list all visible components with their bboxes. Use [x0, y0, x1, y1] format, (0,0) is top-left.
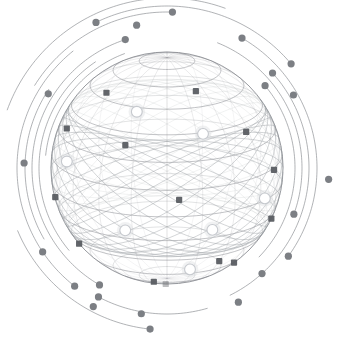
orbital-satellite-dot — [235, 299, 242, 306]
orbital-satellite-dot — [290, 91, 297, 98]
orbital-endpoint-dot — [261, 82, 268, 89]
orbital-arc — [25, 89, 49, 239]
network-node — [151, 279, 157, 285]
orbital-endpoint-dot — [290, 211, 297, 218]
globe-network-illustration — [0, 0, 339, 352]
orbital-endpoint-dot — [269, 69, 276, 76]
orbital-satellite-dot — [258, 270, 265, 277]
orbital-satellite-dot — [20, 159, 27, 166]
orbital-satellite-dot — [325, 176, 332, 183]
network-node — [64, 125, 70, 131]
network-node — [268, 215, 274, 221]
network-node — [243, 129, 249, 135]
network-node — [216, 258, 222, 264]
orbital-endpoint-dot — [122, 36, 129, 43]
orbital-endpoint-dot — [169, 9, 176, 16]
orbital-arc — [96, 6, 290, 63]
network-node — [271, 167, 277, 173]
orbital-satellite-dot — [45, 90, 52, 97]
highlight-node — [120, 225, 131, 236]
orbital-endpoint-dot — [285, 253, 292, 260]
orbital-satellite-dot — [39, 248, 46, 255]
orbital-satellite-dot — [133, 22, 140, 29]
highlight-node — [61, 156, 72, 167]
illustration-stage: Wireframe Globe Network Light gray wiref… — [0, 0, 339, 352]
highlight-node — [131, 106, 142, 117]
network-node — [176, 197, 182, 203]
highlight-node — [207, 224, 218, 235]
orbital-arc — [100, 298, 207, 314]
orbital-endpoint-dot — [146, 326, 153, 333]
orbital-endpoint-dot — [288, 60, 295, 67]
network-node — [76, 241, 82, 247]
orbital-satellite-dot — [90, 303, 97, 310]
network-node — [122, 142, 128, 148]
network-node — [163, 281, 169, 287]
highlight-node — [198, 128, 209, 139]
orbital-endpoint-dot — [71, 283, 78, 290]
orbital-satellite-dot — [238, 35, 245, 42]
orbital-endpoint-dot — [92, 19, 99, 26]
highlight-node — [185, 264, 196, 275]
orbital-endpoint-dot — [95, 293, 102, 300]
network-node — [193, 88, 199, 94]
orbital-endpoint-dot — [96, 281, 103, 288]
node-layer — [52, 88, 277, 287]
network-node — [103, 90, 109, 96]
orbital-arc — [218, 43, 302, 213]
globe-layer — [51, 52, 283, 284]
network-node — [231, 260, 237, 266]
highlight-node — [259, 193, 270, 204]
orbital-satellite-dot — [138, 310, 145, 317]
network-node — [52, 194, 58, 200]
orbital-arc — [230, 73, 309, 295]
